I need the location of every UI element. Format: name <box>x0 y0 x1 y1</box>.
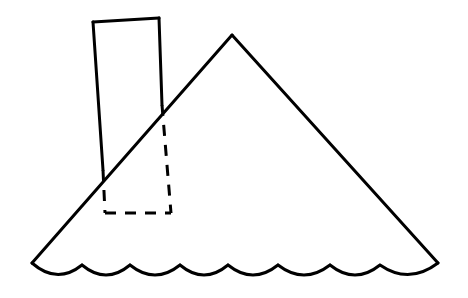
figure-container <box>0 0 468 298</box>
canvas-background <box>0 0 468 298</box>
geometry-figure <box>0 0 468 298</box>
